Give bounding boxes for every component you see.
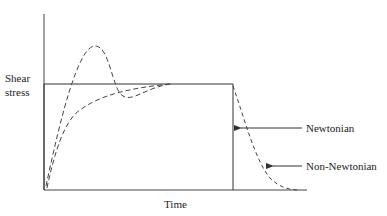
series-non-newtonian-decay [233,86,300,190]
y-axis-label-line2: stress [5,86,29,98]
series-newtonian [44,84,233,190]
series-non-newtonian-overshoot [46,46,170,186]
series-non-newtonian-monotonic [47,84,170,188]
annotation-newtonian: Newtonian [306,122,355,134]
x-axis-label: Time [164,198,187,210]
shear-stress-diagram: Newtonian Non-Newtonian Shear stress Tim… [0,0,387,216]
y-axis-label-line1: Shear [5,72,30,84]
annotation-non-newtonian: Non-Newtonian [306,160,377,172]
diagram-svg: Newtonian Non-Newtonian Shear stress Tim… [0,0,387,216]
